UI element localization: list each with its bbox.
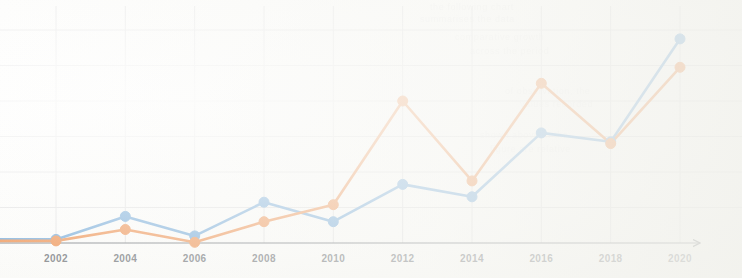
data-point-series-orange-2010 — [328, 200, 338, 210]
data-point-series-orange-2020 — [675, 62, 685, 72]
data-point-series-orange-2002 — [51, 236, 61, 246]
data-point-series-orange-2012 — [398, 96, 408, 106]
line-chart-figure: the following chart summarises the data … — [0, 0, 742, 278]
data-point-series-orange-2008 — [259, 217, 269, 227]
data-point-series-blue-2008 — [259, 197, 269, 207]
series-line-series-orange — [0, 67, 680, 242]
data-point-series-blue-2012 — [398, 179, 408, 189]
series-line-series-blue — [0, 39, 680, 240]
series-lines — [0, 39, 680, 242]
data-point-series-blue-2004 — [120, 211, 130, 221]
data-point-series-blue-2020 — [675, 34, 685, 44]
data-point-series-orange-2016 — [536, 78, 546, 88]
data-point-series-orange-2014 — [467, 176, 477, 186]
data-point-series-blue-2014 — [467, 192, 477, 202]
plot-area — [0, 0, 742, 278]
data-point-series-blue-2010 — [328, 217, 338, 227]
data-point-series-orange-2006 — [190, 237, 200, 247]
data-point-series-blue-2016 — [536, 128, 546, 138]
data-point-series-orange-2018 — [606, 139, 616, 149]
horizontal-gridlines — [0, 30, 742, 208]
data-point-series-orange-2004 — [120, 225, 130, 235]
chart-canvas — [0, 0, 742, 278]
